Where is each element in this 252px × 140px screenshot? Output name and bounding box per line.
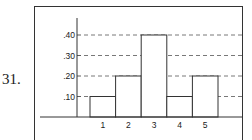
bar-chart: .10.20.30.40 12345 [0,0,252,140]
y-axis-ticks: .10.20.30.40 [63,30,81,102]
x-axis-labels: 12345 [100,120,207,130]
bar-3 [141,35,167,117]
x-tick-label: 3 [152,120,157,130]
y-tick-label: .10 [63,92,75,102]
x-tick-label: 5 [203,120,208,130]
x-tick-label: 2 [126,120,131,130]
y-tick-label: .20 [63,71,75,81]
bar-1 [90,97,116,118]
bars [90,35,218,117]
y-tick-label: .30 [63,51,75,61]
x-tick-label: 1 [100,120,105,130]
bar-4 [167,97,193,118]
bar-5 [192,76,218,117]
x-tick-label: 4 [177,120,182,130]
y-tick-label: .40 [63,30,75,40]
bar-2 [116,76,142,117]
